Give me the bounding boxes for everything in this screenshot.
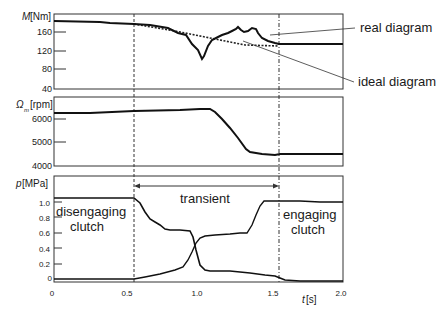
disengaging-clutch-label-line1: disengaging	[56, 204, 126, 219]
pressure-axis-unit: [MPa]	[22, 178, 48, 189]
x-axis-unit: [s]	[306, 294, 317, 305]
speed-tick-6000: 6000	[32, 114, 52, 124]
torque-tick-40: 40	[42, 84, 52, 94]
torque-real-line	[54, 21, 343, 59]
x-tick-1.0: 1.0	[191, 289, 203, 298]
clutch-shift-chart: M [Nm] 160 120 80 40 real diagram ideal …	[0, 0, 448, 315]
speed-axis-unit: [rpm]	[30, 99, 53, 110]
pressure-tick-0.4: 0.4	[39, 245, 51, 254]
pressure-tick-0.6: 0.6	[39, 229, 51, 238]
speed-panel-frame	[54, 97, 343, 166]
torque-tick-80: 80	[42, 64, 52, 74]
transient-label: transient	[180, 191, 230, 206]
transient-arrow-left-head	[134, 184, 140, 189]
torque-ticks	[54, 32, 66, 69]
torque-tick-120: 120	[37, 46, 52, 56]
ideal-diagram-leader	[243, 41, 354, 82]
engaging-clutch-label-line1: engaging	[283, 207, 337, 222]
engaging-clutch-label-line2: clutch	[291, 222, 325, 237]
real-diagram-label: real diagram	[360, 20, 432, 35]
pressure-tick-0: 0	[48, 274, 53, 283]
speed-tick-4000: 4000	[32, 161, 52, 171]
torque-tick-160: 160	[37, 27, 52, 37]
pressure-axis-symbol: p	[15, 178, 22, 189]
speed-line	[54, 109, 343, 155]
x-tick-1.5: 1.5	[267, 289, 279, 298]
torque-ideal-line	[134, 24, 279, 46]
transient-arrow-right-head	[273, 184, 279, 189]
x-tick-2.0: 2.0	[335, 289, 347, 298]
x-tick-0: 0	[50, 289, 55, 298]
pressure-tick-0.2: 0.2	[39, 260, 51, 269]
disengaging-clutch-label-line2: clutch	[70, 219, 104, 234]
pressure-tick-1.0: 1.0	[39, 199, 51, 208]
speed-ticks	[54, 119, 66, 142]
speed-axis-symbol: Ω	[16, 99, 24, 110]
x-tick-0.5: 0.5	[121, 289, 133, 298]
real-diagram-leader	[270, 28, 355, 35]
ideal-diagram-label: ideal diagram	[358, 74, 436, 89]
speed-tick-5000: 5000	[32, 137, 52, 147]
torque-axis-unit: [Nm]	[30, 11, 51, 22]
pressure-tick-0.8: 0.8	[39, 214, 51, 223]
speed-axis-subscript: m	[24, 107, 29, 113]
